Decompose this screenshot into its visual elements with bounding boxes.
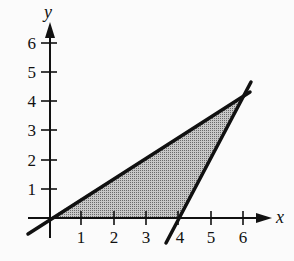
- x-axis-label: x: [275, 207, 284, 227]
- x-tick-label: 1: [77, 228, 86, 247]
- x-tick-label: 3: [142, 228, 151, 247]
- y-tick-label: 2: [28, 151, 37, 170]
- chart: 1 2 3 4 5 6 1 2 3 4 5 6 x y: [0, 0, 294, 261]
- y-tick-label: 5: [28, 63, 37, 82]
- x-tick-label: 4: [176, 228, 185, 247]
- x-tick-label: 2: [110, 228, 119, 247]
- y-axis-arrow-icon: [45, 22, 55, 38]
- x-tick-label: 5: [207, 228, 216, 247]
- y-tick-label: 6: [28, 34, 37, 53]
- x-axis-arrow-icon: [256, 213, 272, 223]
- x-tick-label: 6: [239, 228, 248, 247]
- y-tick-label: 1: [28, 180, 37, 199]
- y-tick-label: 3: [28, 121, 37, 140]
- y-axis-label: y: [42, 2, 52, 22]
- y-tick-label: 4: [28, 92, 37, 111]
